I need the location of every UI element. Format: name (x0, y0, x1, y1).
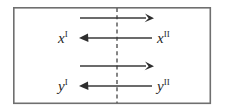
arrow-x-backward (79, 33, 152, 42)
label-y-region-one-base: y (56, 78, 65, 94)
label-y-region-two-base: y (155, 78, 164, 94)
arrow-y-forward-head (145, 62, 154, 71)
arrow-y-backward-head (79, 81, 88, 90)
label-x-region-two-superscript: II (164, 29, 170, 39)
arrow-x-forward-head (145, 14, 154, 23)
label-y-region-two-superscript: II (164, 77, 170, 87)
arrow-x-backward-head (79, 33, 88, 42)
outer-frame (14, 8, 211, 104)
arrow-y-backward (79, 81, 152, 90)
arrow-x-forward (80, 14, 154, 23)
two-region-exchange-diagram: xI xII yI yII (0, 0, 229, 112)
label-y-region-one-superscript: I (65, 77, 68, 87)
label-x-region-one: xI (57, 29, 68, 46)
label-x-region-one-superscript: I (65, 29, 68, 39)
label-x-region-two: xII (156, 29, 170, 46)
label-y-region-one: yI (56, 77, 68, 94)
figure-container: xI xII yI yII (0, 0, 229, 112)
label-y-region-two: yII (155, 77, 170, 94)
